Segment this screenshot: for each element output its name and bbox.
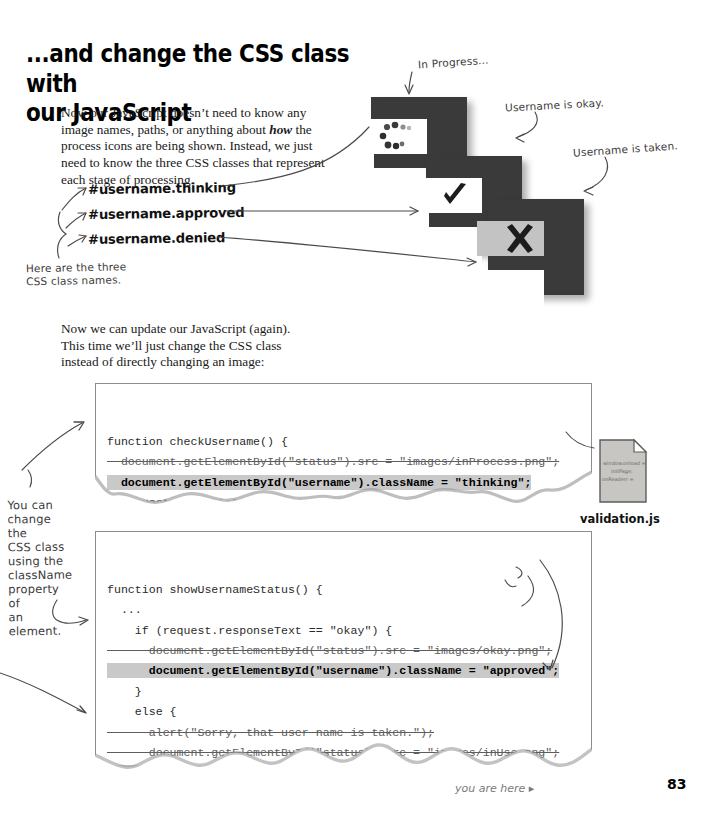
intro-paragraph: Now our JavaScript doesn’t need to know … [61, 105, 339, 188]
css-class-name-denied: #username.denied [88, 230, 225, 247]
page-title-line-1: ...and change the CSS class with [26, 40, 349, 97]
file-card-scribble-3: onReaderr = [602, 476, 634, 482]
process-icon-stack [360, 80, 650, 300]
page-number: 83 [667, 776, 686, 792]
checkmark-icon [432, 179, 478, 211]
annotation-you-can-change: You can change the CSS class using the c… [7, 498, 70, 639]
code-line: if (request.responseText == "okay") { [107, 621, 591, 641]
arrow-to-denied [68, 236, 86, 246]
book-page: ...and change the CSS class with our Jav… [0, 0, 707, 828]
code-line-plain: } [107, 685, 142, 698]
code-line: function showUsernameStatus() { [107, 580, 591, 600]
code-line-struck: document.getElementById("status").src = … [107, 455, 559, 468]
file-card-scribble-1: window.onload = [603, 460, 646, 466]
css-class-name-approved: #username.approved [88, 205, 245, 222]
code-line-plain: ... [107, 603, 142, 616]
code-line-plain: if (request.responseText == "okay") { [107, 624, 392, 637]
file-card-label: validation.js [580, 512, 660, 526]
file-card-scribble-2: initPage; [611, 468, 633, 475]
arrow-to-highlight-1 [22, 423, 82, 470]
x-cross-icon [496, 222, 542, 255]
code-line-plain: else { [107, 705, 177, 718]
intro-paragraph-emphasis: how [269, 122, 292, 137]
annotation-swash [28, 470, 31, 487]
you-are-here-label: you are here ▸ [455, 782, 534, 795]
file-card-validation-js: window.onload = initPage; onReaderr = [597, 437, 649, 505]
torn-paper-edge-2 [95, 735, 592, 783]
arrow-to-thinking [62, 188, 86, 210]
code-line-plain: function showUsernameStatus() { [107, 583, 323, 596]
arrow-to-approved [66, 213, 86, 228]
code-line: } [107, 682, 591, 702]
code-line: function checkUsername() { [107, 432, 591, 452]
annotation-here-are-three: Here are the three CSS class names. [26, 260, 157, 289]
code-line-highlighted: document.getElementById("username").clas… [107, 663, 559, 678]
code-line: ... [107, 600, 591, 620]
code-line-struck: document.getElementById("status").src = … [107, 644, 552, 657]
arrow-to-highlight-3 [0, 673, 84, 712]
annotation-in-progress: In Progress... [418, 54, 489, 72]
annotation-brace [58, 212, 66, 258]
torn-paper-edge-1 [95, 470, 592, 518]
code-line: document.getElementById("username").clas… [107, 661, 591, 681]
code-line: document.getElementById("status").src = … [107, 641, 591, 661]
code-line-plain: function checkUsername() { [107, 435, 288, 448]
update-paragraph: Now we can update our JavaScript (again)… [61, 321, 311, 371]
css-class-name-thinking: #username.thinking [88, 180, 236, 197]
code-line: else { [107, 702, 591, 722]
in-progress-dots-icon [376, 121, 424, 152]
